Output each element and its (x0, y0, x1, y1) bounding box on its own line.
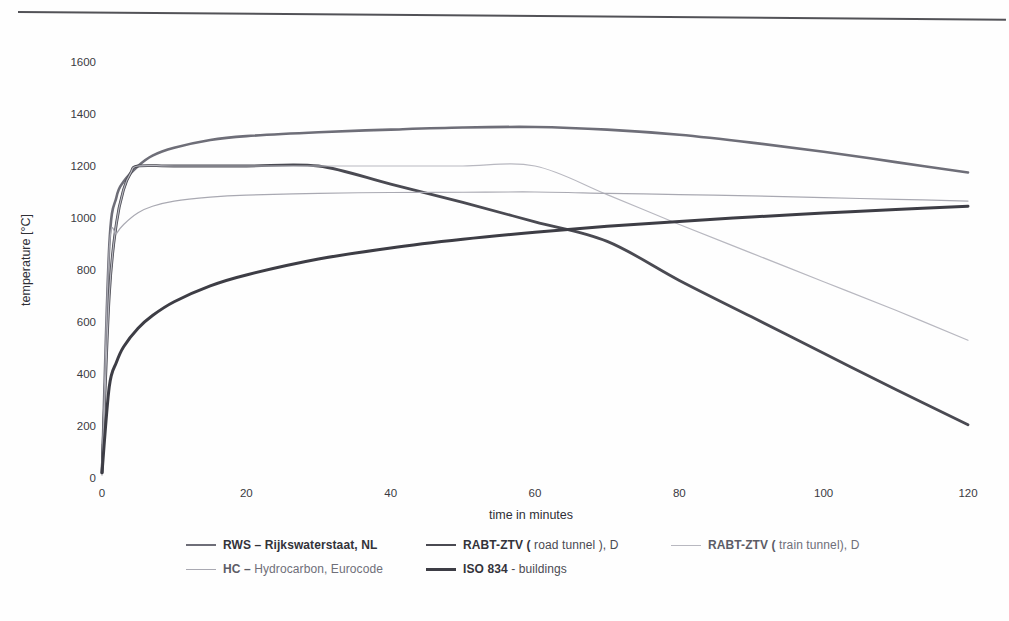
legend-item[interactable]: RABT-ZTV ( train tunnel), D (671, 538, 881, 552)
legend-line-swatch (186, 569, 216, 570)
x-tick-label: 40 (384, 487, 397, 499)
series-line-2 (102, 164, 968, 473)
y-tick-label: 1000 (70, 212, 96, 224)
legend-item-label: RABT-ZTV ( road tunnel ), D (463, 538, 618, 552)
series-line-4 (102, 206, 968, 473)
x-axis-tick-labels: 020406080100120 (99, 487, 978, 499)
series-line-3 (102, 192, 968, 473)
legend-row: RWS – Rijkswaterstaat, NLRABT-ZTV ( road… (186, 538, 886, 562)
y-tick-label: 1600 (70, 56, 96, 68)
y-tick-label: 1200 (70, 160, 96, 172)
x-tick-label: 100 (814, 487, 833, 499)
y-tick-label: 0 (90, 472, 96, 484)
plot-svg: 02004006008001000120014001600 0204060801… (0, 0, 1009, 530)
y-tick-label: 200 (77, 420, 96, 432)
chart-page: 02004006008001000120014001600 0204060801… (0, 0, 1009, 621)
y-axis-tick-labels: 02004006008001000120014001600 (70, 56, 96, 484)
x-tick-label: 120 (958, 487, 977, 499)
legend-line-swatch (671, 545, 701, 546)
x-tick-label: 60 (529, 487, 542, 499)
y-tick-label: 400 (77, 368, 96, 380)
legend-item[interactable]: RABT-ZTV ( road tunnel ), D (426, 538, 671, 552)
y-tick-label: 800 (77, 264, 96, 276)
legend-item[interactable]: ISO 834 - buildings (426, 562, 671, 576)
x-axis-title: time in minutes (489, 508, 573, 522)
x-tick-label: 0 (99, 487, 105, 499)
legend-line-swatch (426, 568, 456, 571)
legend-row: HC – Hydrocarbon, EurocodeISO 834 - buil… (186, 562, 886, 586)
legend-item-label: RABT-ZTV ( train tunnel), D (708, 538, 859, 552)
series-group (102, 127, 968, 473)
y-tick-label: 600 (77, 316, 96, 328)
legend-item[interactable]: HC – Hydrocarbon, Eurocode (186, 562, 426, 576)
x-tick-label: 20 (240, 487, 253, 499)
series-line-0 (102, 127, 968, 473)
chart-legend: RWS – Rijkswaterstaat, NLRABT-ZTV ( road… (186, 538, 886, 586)
legend-item-label: RWS – Rijkswaterstaat, NL (223, 538, 377, 552)
y-tick-label: 1400 (70, 108, 96, 120)
x-tick-label: 80 (673, 487, 686, 499)
legend-item[interactable]: RWS – Rijkswaterstaat, NL (186, 538, 426, 552)
legend-item-label: HC – Hydrocarbon, Eurocode (223, 562, 383, 576)
legend-line-swatch (186, 544, 216, 546)
fire-curves-chart: 02004006008001000120014001600 0204060801… (0, 0, 1009, 530)
legend-line-swatch (426, 544, 456, 546)
y-axis-title: temperature [°C] (19, 214, 33, 306)
legend-item-label: ISO 834 - buildings (463, 562, 567, 576)
